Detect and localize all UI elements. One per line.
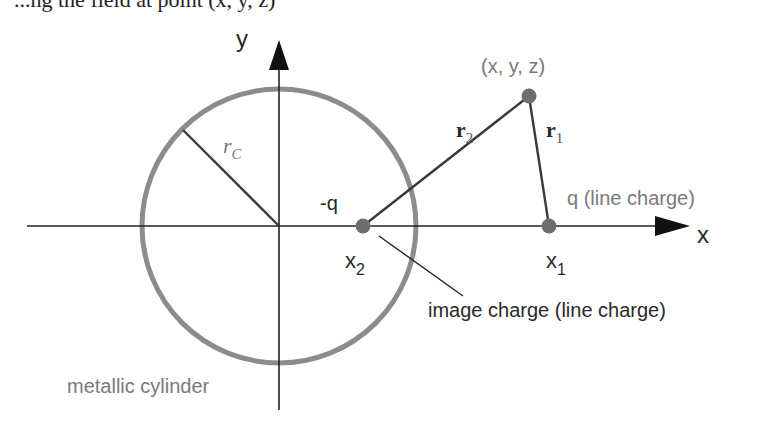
image-charge-dot — [356, 219, 371, 234]
vector-r2-label: r2 — [456, 117, 473, 146]
metallic-cylinder-caption: metallic cylinder — [67, 375, 210, 397]
y-axis-label: y — [236, 25, 248, 52]
radius-label: rC — [223, 133, 243, 162]
real-charge-position-label: x1 — [546, 248, 566, 278]
x-axis-label: x — [697, 221, 709, 248]
y-axis-arrow-icon — [269, 40, 289, 70]
vector-r1-label: r1 — [546, 117, 563, 146]
field-point-dot — [522, 89, 537, 104]
image-charge-label: -q — [320, 192, 338, 214]
image-charge-leader-line — [379, 236, 463, 296]
vector-r2-line — [363, 96, 529, 226]
vector-r1-line — [529, 96, 549, 226]
image-charge-diagram: y x rC (x, y, z) r2 r1 q (line charge) x… — [0, 0, 763, 435]
real-charge-dot — [542, 219, 557, 234]
field-point-label: (x, y, z) — [481, 55, 545, 77]
image-charge-caption: image charge (line charge) — [428, 299, 666, 321]
real-charge-label: q (line charge) — [567, 187, 695, 209]
image-charge-position-label: x2 — [345, 248, 365, 278]
x-axis-arrow-icon — [655, 216, 690, 236]
